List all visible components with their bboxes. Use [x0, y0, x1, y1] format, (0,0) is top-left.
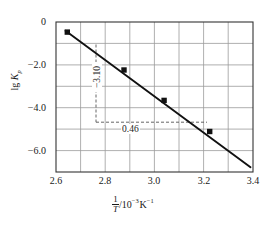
y-axis-title: lg Kp	[9, 77, 24, 91]
y-axis-title-symbol: K	[9, 74, 20, 81]
data-point	[161, 98, 166, 103]
data-point	[65, 29, 70, 34]
x-axis-title: 1 T /10−3 K−1	[112, 196, 154, 215]
y-tick-label: 0	[16, 16, 46, 27]
x-axis-title-unit-kelvin: K	[140, 199, 147, 210]
y-tick-label: −2.0	[16, 59, 46, 70]
fraction-numerator: 1	[112, 195, 119, 204]
x-tick-label: 2.6	[41, 175, 71, 186]
y-tick-label: −4.0	[16, 102, 46, 113]
rise-annotation-label: −3.10	[92, 62, 102, 92]
y-axis-title-prefix: lg	[9, 80, 20, 90]
data-points	[65, 29, 213, 134]
x-axis-title-fraction: 1 T	[112, 195, 119, 214]
x-tick-label: 3.4	[238, 175, 266, 186]
x-tick-label: 2.8	[90, 175, 120, 186]
fit-line	[66, 31, 251, 167]
x-axis-title-unit-exponent: −3	[132, 197, 139, 204]
run-annotation-label: 0.46	[121, 124, 140, 134]
data-point	[121, 67, 126, 72]
chart-figure: lg Kp 0 −2.0 −4.0 −6.0 2.6 2.8 3.0 3.2 3…	[0, 0, 266, 225]
y-axis-title-subscript: p	[15, 70, 22, 73]
y-tick-label: −6.0	[16, 145, 46, 156]
data-point	[207, 129, 212, 134]
x-axis-title-unit-kelvin-exponent: −1	[147, 197, 154, 204]
x-axis-title-unit-base: 10	[122, 199, 132, 210]
x-tick-label: 3.2	[189, 175, 219, 186]
fraction-denominator: T	[112, 204, 119, 214]
x-tick-label: 3.0	[139, 175, 169, 186]
